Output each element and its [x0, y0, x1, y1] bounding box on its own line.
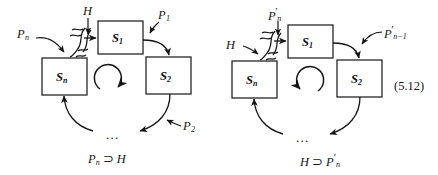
arrow-p1-pointer-left: [150, 22, 159, 33]
arrow-p2-pointer-left: [167, 120, 181, 126]
arrow-s1-to-s2-right: [333, 43, 359, 58]
arrow-s1-to-s2-left: [143, 40, 169, 55]
arrow-s2-to-dots-left: [140, 94, 170, 131]
arrow-dots-to-sn-left: [64, 96, 93, 131]
box-label-s2-left: S2: [160, 70, 171, 84]
annotation-pn-left: Pn: [17, 28, 29, 42]
break-squiggle-right: [260, 31, 281, 60]
figure-container: S1 S2 Sn H Pn P1 P2 ... Pn⊃H S1 S2 Sn P′…: [0, 0, 438, 175]
box-label-s2-right: S2: [351, 73, 362, 87]
box-label-sn-left: Sn: [56, 71, 67, 85]
box-label-sn-right: Sn: [246, 74, 257, 88]
figure-drawing: [0, 0, 438, 175]
arrow-s2-to-dots-right: [330, 97, 360, 134]
annotation-p1-left: P1: [158, 9, 170, 23]
annotation-pn-prime-right: P′n: [268, 6, 281, 23]
caption-right: H⊃P′n: [300, 151, 340, 170]
box-label-s1-left: S1: [112, 32, 123, 46]
arrow-h-pointer-right: [243, 46, 258, 54]
arrow-dots-to-sn-right: [254, 99, 283, 134]
annotation-pn1-prime-right: P′n−1: [384, 24, 407, 41]
arrow-pn1-prime-pointer-right: [362, 32, 382, 44]
caption-left: Pn⊃H: [88, 151, 126, 167]
rotation-arrow-right: [297, 67, 324, 91]
arrow-pn-pointer-left: [36, 38, 64, 52]
annotation-h-right: H: [226, 39, 235, 52]
annotation-p2-left: P2: [183, 120, 195, 134]
equation-number: (5.12): [394, 79, 424, 94]
ellipsis-right: ...: [296, 130, 309, 146]
annotation-h-left: H: [83, 5, 92, 18]
rotation-arrow-left: [94, 65, 121, 89]
ellipsis-left: ...: [106, 127, 119, 143]
box-label-s1-right: S1: [302, 36, 313, 50]
